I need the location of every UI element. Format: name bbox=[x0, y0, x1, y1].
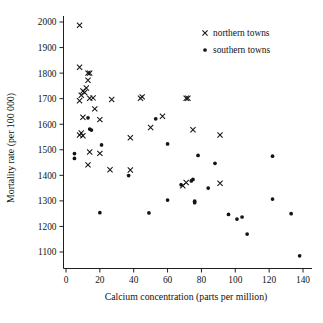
data-point-dot bbox=[98, 211, 102, 215]
y-tick-label: 2000 bbox=[38, 17, 57, 27]
data-point-dot bbox=[166, 198, 170, 202]
x-tick-label: 100 bbox=[228, 275, 242, 285]
data-point-dot bbox=[90, 128, 94, 132]
x-tick-label: 40 bbox=[129, 275, 139, 285]
x-axis: 020406080100120140 bbox=[64, 269, 313, 286]
data-point-dot bbox=[213, 161, 217, 165]
data-point-dot bbox=[206, 186, 210, 190]
y-tick-label: 1800 bbox=[38, 69, 57, 79]
data-point-dot bbox=[127, 174, 131, 178]
data-point-dot bbox=[166, 142, 170, 146]
data-point-dot bbox=[73, 152, 77, 156]
y-axis-title: Mortality rate (per 100 000) bbox=[5, 93, 17, 203]
data-point-cross bbox=[217, 181, 222, 186]
data-point-cross bbox=[184, 180, 189, 185]
data-point-cross bbox=[77, 65, 82, 70]
data-point-dot bbox=[147, 211, 151, 215]
data-point-cross bbox=[128, 167, 133, 172]
data-point-dot bbox=[298, 254, 302, 258]
data-point-dot bbox=[73, 157, 77, 161]
data-point-dot bbox=[245, 232, 249, 236]
scatter-plot-figure: 1100120013001400150016001700180019002000… bbox=[0, 0, 323, 323]
data-point-cross bbox=[97, 151, 102, 156]
chart-legend: northern townssouthern towns bbox=[202, 28, 270, 55]
data-point-dot bbox=[271, 197, 275, 201]
data-point-cross bbox=[140, 94, 145, 99]
legend-marker-cross bbox=[202, 30, 207, 35]
data-point-cross bbox=[87, 96, 92, 101]
data-point-cross bbox=[97, 117, 102, 122]
data-point-dot bbox=[86, 116, 90, 120]
data-point-dot bbox=[191, 178, 195, 182]
series-southern-towns bbox=[73, 116, 302, 258]
data-point-dot bbox=[271, 154, 275, 158]
y-axis: 1100120013001400150016001700180019002000 bbox=[38, 16, 64, 269]
data-point-dot bbox=[289, 212, 293, 216]
data-point-cross bbox=[190, 127, 195, 132]
y-tick-label: 1100 bbox=[38, 247, 57, 257]
data-point-cross bbox=[87, 149, 92, 154]
y-tick-label: 1900 bbox=[38, 43, 57, 53]
data-point-cross bbox=[77, 23, 82, 28]
x-tick-label: 20 bbox=[95, 275, 105, 285]
data-point-cross bbox=[160, 114, 165, 119]
data-point-dot bbox=[154, 117, 158, 121]
data-point-cross bbox=[77, 98, 82, 103]
y-tick-label: 1200 bbox=[38, 222, 57, 232]
legend-marker-dot bbox=[203, 48, 207, 52]
data-point-cross bbox=[148, 125, 153, 130]
data-point-cross bbox=[85, 162, 90, 167]
data-point-dot bbox=[196, 154, 200, 158]
data-point-dot bbox=[240, 215, 244, 219]
legend-label-northern-towns: northern towns bbox=[213, 28, 270, 38]
chart-canvas: 1100120013001400150016001700180019002000… bbox=[0, 0, 323, 323]
x-tick-label: 0 bbox=[64, 275, 69, 285]
data-point-dot bbox=[100, 143, 104, 147]
data-point-cross bbox=[79, 93, 84, 98]
data-point-cross bbox=[85, 78, 90, 83]
data-point-cross bbox=[80, 115, 85, 120]
y-tick-label: 1700 bbox=[38, 94, 57, 104]
y-tick-label: 1600 bbox=[38, 120, 57, 130]
x-tick-label: 120 bbox=[262, 275, 276, 285]
data-point-cross bbox=[107, 167, 112, 172]
x-axis-title: Calcium concentration (parts per million… bbox=[105, 291, 268, 303]
x-tick-label: 60 bbox=[163, 275, 173, 285]
data-point-dot bbox=[179, 183, 183, 187]
data-point-dot bbox=[193, 201, 197, 205]
data-point-cross bbox=[109, 97, 114, 102]
data-point-cross bbox=[217, 132, 222, 137]
legend-label-southern-towns: southern towns bbox=[213, 45, 270, 55]
x-tick-label: 140 bbox=[296, 275, 310, 285]
data-point-dot bbox=[227, 213, 231, 217]
y-tick-label: 1500 bbox=[38, 145, 57, 155]
data-point-dot bbox=[235, 217, 239, 221]
data-series-group bbox=[73, 23, 302, 258]
series-northern-towns bbox=[77, 23, 223, 189]
x-tick-label: 80 bbox=[197, 275, 207, 285]
data-point-cross bbox=[128, 135, 133, 140]
data-point-cross bbox=[92, 106, 97, 111]
y-tick-label: 1300 bbox=[38, 196, 57, 206]
y-tick-label: 1400 bbox=[38, 171, 57, 181]
